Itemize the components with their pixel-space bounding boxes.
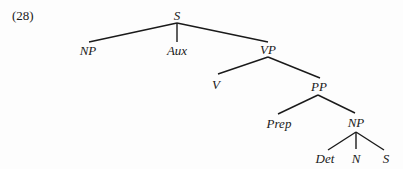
edge-s-vp	[177, 23, 268, 42]
edge-vp-v	[218, 57, 268, 74]
node-s-embedded: S	[383, 152, 390, 165]
node-det: Det	[316, 152, 335, 165]
node-pp: PP	[311, 80, 327, 93]
node-np-subject: NP	[80, 44, 97, 57]
node-vp: VP	[260, 43, 276, 56]
tree-edges	[0, 0, 403, 169]
edge-vp-pp	[268, 57, 320, 78]
syntax-tree-diagram: (28) S NP Aux VP V PP Prep NP Det N S	[0, 0, 403, 169]
node-np-object: NP	[348, 116, 365, 129]
node-n: N	[352, 152, 361, 165]
edge-np-det	[328, 132, 356, 150]
node-v: V	[212, 78, 220, 91]
edge-np-s	[356, 132, 384, 150]
node-aux: Aux	[167, 44, 187, 57]
edge-pp-prep	[278, 95, 318, 114]
node-prep: Prep	[267, 117, 292, 130]
node-s-root: S	[174, 9, 181, 22]
edge-s-np	[89, 23, 177, 42]
edge-pp-np	[318, 95, 355, 113]
